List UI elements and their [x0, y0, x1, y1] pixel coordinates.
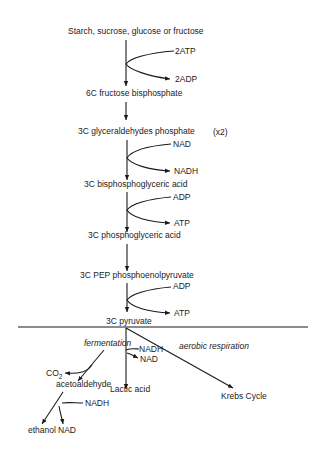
step-glyceraldehydes-phosphate-label: 3C glyceraldehydes phosphate: [78, 126, 195, 136]
lactic-nad-label: NAD: [140, 354, 158, 364]
side-in-curve-3: [127, 197, 171, 210]
side-out-curve-1: [126, 64, 170, 79]
glycolysis-diagram: Starch, sucrose, glucose or fructose 2AT…: [0, 0, 329, 455]
side-in-adp-1: ADP: [173, 192, 191, 202]
side-out-curve-2: [127, 158, 170, 171]
side-out-atp-1: ATP: [174, 218, 190, 228]
side-in-curve-4: [127, 287, 171, 300]
multiplier-note: (x2): [213, 127, 228, 137]
side-out-atp-2: ATP: [174, 308, 190, 318]
side-in-nad: NAD: [173, 139, 191, 149]
co2-out-curve: [65, 365, 92, 373]
ethanol-nad-label: NAD: [58, 425, 76, 435]
side-out-2adp: 2ADP: [175, 74, 198, 84]
side-in-2atp: 2ATP: [175, 46, 196, 56]
step-fructose-bisphosphate-label: 6C fructose bisphosphate: [86, 88, 183, 98]
step-starch-label: Starch, sucrose, glucose or fructose: [68, 26, 204, 36]
lactic-acid-label: Lactic acid: [110, 384, 150, 394]
acetoaldehyde-label: acetoaldehyde: [56, 379, 112, 389]
step-phosphoglyceric-acid-label: 3C phosphoglyceric acid: [88, 230, 181, 240]
side-in-curve-1: [126, 51, 174, 64]
step-pep-label: 3C PEP phosphoenolpyruvate: [80, 270, 194, 280]
co2-main: CO: [46, 368, 59, 378]
krebs-cycle-label: Krebs Cycle: [221, 391, 267, 401]
ethanol-nad-out: [59, 406, 63, 424]
aerobic-respiration-label: aerobic respiration: [179, 341, 249, 351]
side-in-curve-2: [127, 144, 171, 158]
step-pyruvate-label: 3C pyruvate: [106, 316, 152, 326]
side-out-nadh: NADH: [174, 166, 198, 176]
fermentation-label: fermentation: [84, 338, 132, 348]
step-bisphosphoglyceric-acid-label: 3C bisphosphoglyceric acid: [84, 179, 188, 189]
side-in-adp-2: ADP: [173, 281, 191, 291]
ethanol-label: ethanol: [28, 425, 56, 435]
side-out-curve-4: [127, 300, 170, 313]
side-out-curve-3: [127, 210, 170, 223]
lactic-nadh-in: [126, 349, 139, 350]
ethanol-nadh-label: NADH: [85, 398, 109, 408]
lactic-nadh-label: NADH: [139, 344, 163, 354]
lactic-nad-out: [127, 353, 138, 358]
